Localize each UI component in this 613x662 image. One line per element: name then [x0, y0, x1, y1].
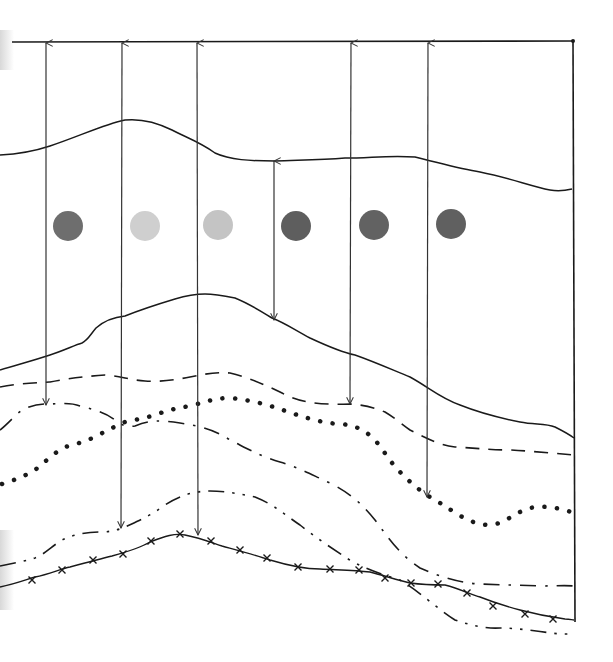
arrow-5: [350, 43, 351, 404]
circle-marker-6: [436, 209, 466, 239]
arrow-6: [427, 43, 428, 497]
circle-marker-2: [130, 211, 160, 241]
frame-corner-dot: [571, 39, 575, 43]
profile-diagram: [0, 0, 613, 662]
arrow-3: [197, 43, 198, 535]
circle-marker-1: [53, 211, 83, 241]
cross-marked-curve: [0, 534, 574, 620]
circle-markers: [53, 209, 466, 241]
frame-right-line: [573, 41, 575, 622]
arrows: [46, 43, 428, 535]
middle-solid-curve: [0, 294, 574, 438]
cross-markers: [29, 531, 557, 623]
circle-marker-5: [359, 210, 389, 240]
dash-dot-curve-upper: [0, 404, 574, 587]
circle-marker-3: [203, 210, 233, 240]
circle-marker-4: [281, 211, 311, 241]
upper-solid-curve: [0, 120, 572, 191]
arrow-2: [121, 43, 122, 528]
frame-top-line: [12, 41, 574, 42]
dotted-curve: [2, 398, 574, 525]
frame: [12, 39, 575, 622]
